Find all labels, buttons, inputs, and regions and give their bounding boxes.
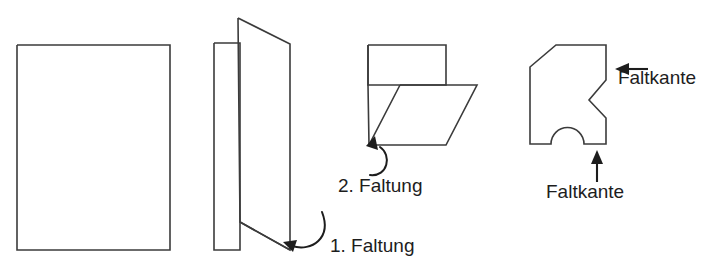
- quarter-fold-upper-rectangle: [368, 45, 446, 85]
- flat-sheet-rectangle: [17, 45, 170, 250]
- folded-sheet-front-flap: [238, 18, 290, 250]
- fold-2-label: 2. Faltung: [338, 175, 423, 196]
- faltkante-bottom-label: Faltkante: [546, 181, 624, 202]
- fold-2-curved-arrow: [370, 147, 387, 175]
- cut-result-outline: [530, 45, 606, 144]
- fold-1-curved-arrow: [292, 212, 325, 247]
- quarter-fold-left-edge: [368, 45, 369, 145]
- fold-1-label: 1. Faltung: [330, 235, 415, 256]
- faltkante-right-label: Faltkante: [618, 67, 696, 88]
- step-3-second-fold: 2. Faltung: [338, 45, 477, 196]
- step-1-flat-sheet: [17, 45, 170, 250]
- quarter-fold-parallelogram: [369, 85, 477, 145]
- folded-sheet-back-panel: [214, 43, 240, 250]
- folding-instructions-diagram: 1. Faltung 2. Faltung Faltkante Faltkant…: [0, 0, 720, 274]
- diagram-canvas: 1. Faltung 2. Faltung Faltkante Faltkant…: [0, 0, 720, 274]
- folded-sheet-fold-crease: [240, 222, 290, 250]
- faltkante-bottom-arrowhead-icon: [591, 150, 603, 164]
- step-4-cut-result: Faltkante Faltkante: [530, 45, 696, 202]
- step-2-first-fold: 1. Faltung: [214, 18, 415, 256]
